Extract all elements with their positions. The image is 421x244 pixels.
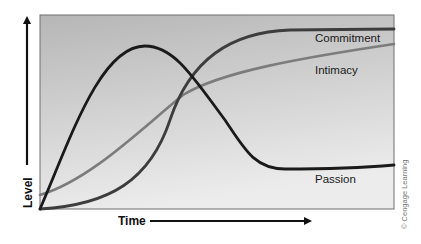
commitment-label: Commitment bbox=[315, 32, 381, 44]
relationship-components-chart: Commitment Intimacy Passion Level Time ©… bbox=[0, 0, 421, 244]
intimacy-label: Intimacy bbox=[315, 64, 358, 76]
copyright-credit: © Cengage Learning bbox=[400, 160, 409, 229]
level-axis-label: Level bbox=[21, 177, 35, 208]
time-axis-label: Time bbox=[118, 214, 146, 228]
passion-label: Passion bbox=[315, 173, 356, 185]
